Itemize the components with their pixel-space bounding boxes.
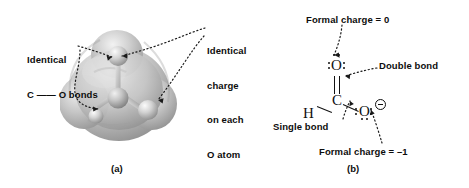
label-single-bond: Single bond	[273, 121, 328, 133]
lone-pair-dot	[343, 62, 345, 64]
panel-a-caption: (a)	[111, 163, 123, 174]
chemistry-figure: Identical C —— O bonds Identical charge …	[0, 0, 469, 188]
lone-pair-dot	[328, 67, 330, 69]
c-h-bond-line	[317, 106, 332, 113]
atom-o-right-sphere	[138, 100, 158, 120]
label-double-bond: Double bond	[379, 60, 438, 72]
lone-pair-dot	[338, 54, 340, 56]
lone-pair-dot	[328, 62, 330, 64]
lone-pair-dot	[333, 54, 335, 56]
lone-pair-dot	[370, 108, 372, 110]
lewis-atom-o-right: O	[359, 104, 370, 119]
lone-pair-dot	[366, 118, 368, 120]
label-identical-co-bonds: Identical C —— O bonds	[27, 31, 98, 123]
label-formal-charge-zero: Formal charge = 0	[306, 14, 389, 26]
lone-pair-dot	[343, 67, 345, 69]
label-formal-charge-minus-one: Formal charge = –1	[319, 146, 408, 158]
panel-b-leader-lines	[235, 0, 469, 188]
atom-o-top-sphere	[108, 46, 128, 66]
lewis-atom-c-center: C	[332, 93, 342, 108]
lewis-atom-h: H	[303, 106, 314, 121]
lone-pair-dot	[355, 113, 357, 115]
panel-a-space-filling-model: Identical C —— O bonds Identical charge …	[0, 0, 235, 188]
lone-pair-dot	[370, 113, 372, 115]
label-identical-co-bonds-line2: C —— O bonds	[27, 89, 98, 101]
atom-c-sphere	[108, 88, 129, 109]
lewis-atom-o-top: O	[331, 58, 342, 73]
panel-b-lewis-structure: O C H O	[235, 0, 469, 188]
panel-b-caption: (b)	[347, 163, 359, 174]
negative-charge-minus	[378, 104, 383, 105]
lone-pair-dot	[361, 118, 363, 120]
label-identical-co-bonds-line1: Identical	[27, 54, 98, 66]
